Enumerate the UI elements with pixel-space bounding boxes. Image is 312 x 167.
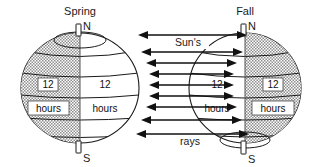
globe-spring-day-unit: hours: [92, 103, 117, 114]
globe-spring-day-number: 12: [99, 79, 111, 90]
globe-fall-night-number: 12: [267, 79, 279, 90]
globe-spring-night-unit: hours: [36, 103, 61, 114]
globe-fall-south-axis-pin: [241, 141, 246, 154]
globe-spring-north-axis-pin: [76, 24, 81, 36]
globe-fall-south-label: S: [248, 153, 255, 165]
globe-spring-night-number: 12: [42, 79, 54, 90]
globe-fall-season-label: Fall: [236, 5, 254, 17]
globe-spring-south-axis-pin: [76, 141, 81, 153]
equinox-diagram: Spring N S 12 hours 12 hours: [0, 0, 312, 167]
globe-fall-night-unit: hours: [260, 103, 285, 114]
globe-fall-north-label: N: [248, 20, 256, 32]
globe-spring-south-label: S: [83, 152, 90, 164]
diagram-canvas: Spring N S 12 hours 12 hours: [0, 0, 312, 167]
globe-spring-north-label: N: [83, 20, 91, 32]
globe-spring: Spring N S 12 hours 12 hours: [18, 5, 139, 164]
globe-spring-season-label: Spring: [64, 5, 96, 17]
suns-rays-top-label: Sun's: [175, 36, 201, 48]
globe-fall-day-unit: hours: [204, 103, 229, 114]
suns-rays-bottom-label: rays: [180, 135, 200, 147]
